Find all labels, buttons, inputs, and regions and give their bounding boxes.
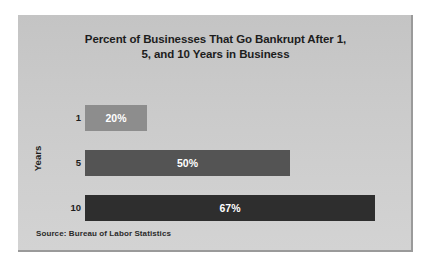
y-axis-title: Years bbox=[32, 131, 43, 187]
bar-value-label: 50% bbox=[85, 150, 290, 176]
chart-title-line-1: Percent of Businesses That Go Bankrupt A… bbox=[85, 33, 346, 45]
chart-title-line-2: 5, and 10 Years in Business bbox=[36, 47, 395, 62]
category-label-10: 10 bbox=[67, 195, 81, 221]
category-label-1: 1 bbox=[67, 105, 81, 131]
chart-title: Percent of Businesses That Go Bankrupt A… bbox=[36, 32, 395, 62]
chart-panel: Percent of Businesses That Go Bankrupt A… bbox=[18, 15, 413, 252]
bar-row: 1 20% bbox=[67, 105, 397, 131]
bar-row: 10 67% bbox=[67, 195, 397, 221]
source-note: Source: Bureau of Labor Statistics bbox=[36, 229, 171, 238]
bar-10-years[interactable]: 67% bbox=[85, 195, 375, 221]
category-label-5: 5 bbox=[67, 150, 81, 176]
bar-1-year[interactable]: 20% bbox=[85, 105, 147, 131]
bar-value-label: 20% bbox=[85, 105, 147, 131]
plot-area: 1 20% 5 50% 10 67% bbox=[67, 100, 397, 232]
bar-row: 5 50% bbox=[67, 150, 397, 176]
bar-5-years[interactable]: 50% bbox=[85, 150, 290, 176]
bar-value-label: 67% bbox=[85, 195, 375, 221]
